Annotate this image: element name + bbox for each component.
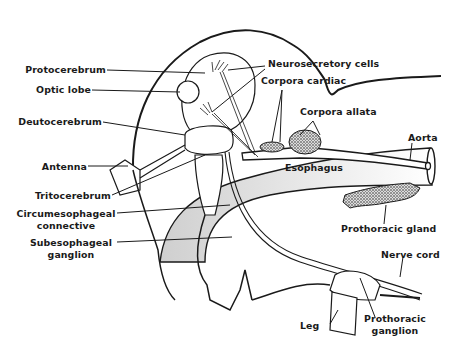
label-prothoracic-gland: Prothoracic gland	[341, 223, 436, 234]
label-prothoracic-ganglion-line1: Prothoracic	[360, 313, 430, 324]
label-protocerebrum: Protocerebrum	[18, 64, 106, 75]
label-corpora-cardiac: Corpora cardiac	[261, 75, 346, 86]
label-corpora-allata: Corpora allata	[300, 106, 377, 117]
label-neurosecretory-cells: Neurosecretory cells	[268, 58, 379, 69]
antenna-stub	[110, 145, 185, 195]
neuroendocrine-diagram: Protocerebrum Optic lobe Deutocerebrum A…	[0, 0, 461, 357]
corpora-allata	[289, 130, 321, 154]
label-aorta: Aorta	[408, 132, 438, 143]
label-leg: Leg	[300, 320, 319, 331]
label-esophagus: Esophagus	[285, 162, 343, 173]
corpora-cardiaca	[260, 142, 284, 152]
label-subesophageal-line2: ganglion	[26, 249, 116, 260]
label-prothoracic-ganglion-line2: ganglion	[360, 325, 430, 336]
anatomy-drawing	[0, 0, 461, 357]
label-circumesophageal-line2: connective	[16, 220, 116, 231]
label-nerve-cord: Nerve cord	[381, 249, 440, 260]
label-deutocerebrum: Deutocerebrum	[10, 116, 102, 127]
label-tritocerebrum: Tritocerebrum	[20, 190, 111, 201]
label-antenna: Antenna	[30, 161, 87, 172]
label-optic-lobe: Optic lobe	[18, 84, 91, 95]
label-circumesophageal-line1: Circumesophageal	[16, 208, 116, 219]
label-subesophageal-line1: Subesophageal	[26, 237, 116, 248]
